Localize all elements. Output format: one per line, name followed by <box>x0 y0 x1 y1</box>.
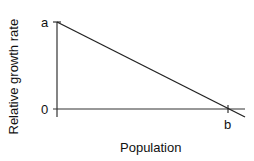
x-tick-label-b: b <box>224 118 231 131</box>
y-axis-label: Relative growth rate <box>6 25 21 135</box>
chart-canvas <box>0 0 254 161</box>
y-tick-label-zero: 0 <box>41 103 48 116</box>
x-axis-label: Population <box>120 141 181 154</box>
growth-rate-line <box>57 22 245 117</box>
y-tick-label-a: a <box>41 16 48 29</box>
